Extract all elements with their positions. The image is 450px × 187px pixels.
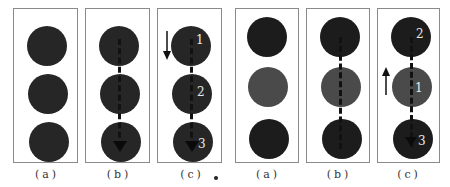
left-caption-a: (a) <box>17 168 77 181</box>
dashed-path <box>410 37 413 147</box>
arrowhead-down-icon <box>185 141 199 153</box>
right-caption-a: (a) <box>238 168 298 181</box>
right-panel-c: 2 1 3 <box>377 8 440 163</box>
arrow-down-icon <box>162 31 172 61</box>
circle-middle <box>248 67 288 107</box>
order-number: 3 <box>418 134 426 148</box>
order-number: 1 <box>415 81 423 95</box>
right-panel-a <box>235 8 299 163</box>
left-caption-b: (b) <box>89 168 149 181</box>
circle-bottom <box>322 119 362 159</box>
order-number: 2 <box>416 27 424 41</box>
dashed-path <box>118 39 121 147</box>
left-panel-b <box>85 8 150 163</box>
right-panel-b <box>306 8 370 163</box>
circle-top <box>27 26 67 66</box>
arrow-up-icon <box>381 67 391 95</box>
order-number: 2 <box>197 85 205 99</box>
circle-top <box>247 17 287 57</box>
left-caption-c: (c) <box>162 168 222 181</box>
right-caption-b: (b) <box>309 168 369 181</box>
left-panel-c: 1 2 3 <box>157 8 222 163</box>
circle-middle <box>28 74 68 114</box>
right-caption-c: (c) <box>379 168 439 181</box>
dashed-path <box>190 39 193 147</box>
dashed-path <box>339 37 342 149</box>
arrowhead-down-icon <box>113 141 127 153</box>
circle-bottom <box>249 119 289 159</box>
arrowhead-down-icon <box>405 137 417 147</box>
order-number: 1 <box>196 33 204 47</box>
circle-bottom <box>29 122 69 162</box>
separator-dot <box>214 176 218 180</box>
order-number: 3 <box>198 137 206 151</box>
left-panel-a <box>13 8 78 163</box>
